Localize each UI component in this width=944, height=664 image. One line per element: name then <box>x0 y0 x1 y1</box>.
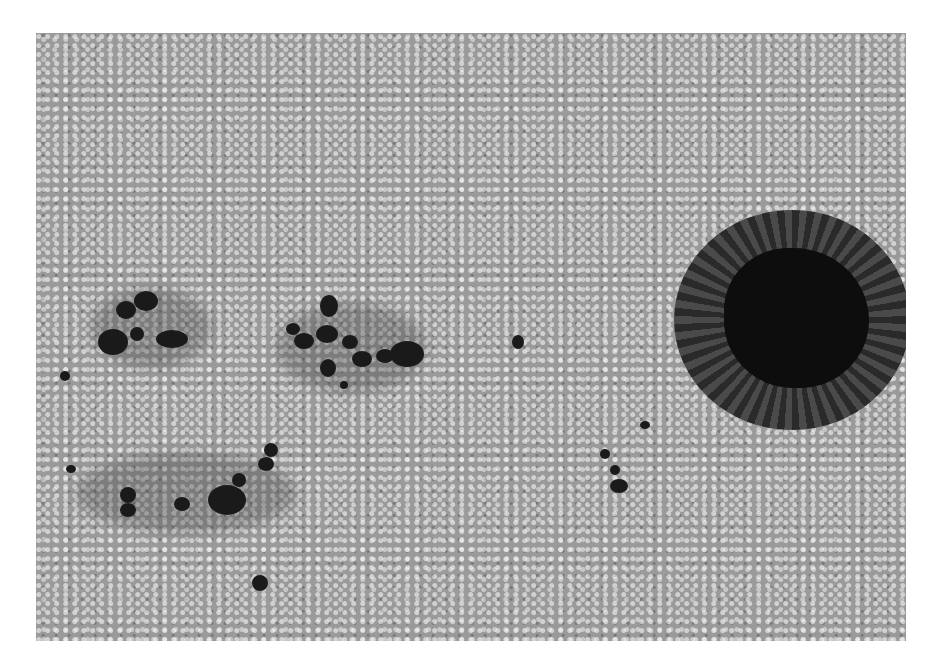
pore <box>316 325 338 343</box>
pore <box>610 479 628 493</box>
pore <box>208 485 246 515</box>
pore <box>352 351 372 367</box>
pore <box>640 421 650 429</box>
pore <box>156 330 188 348</box>
pore <box>610 465 620 475</box>
pore <box>512 335 524 349</box>
pore <box>294 333 314 349</box>
pore <box>320 359 336 377</box>
pore <box>98 329 128 355</box>
pore <box>60 371 70 381</box>
pore <box>264 443 278 457</box>
pore <box>116 301 136 319</box>
solar-surface-photo <box>36 33 906 641</box>
pore <box>120 503 136 517</box>
pore <box>600 449 610 459</box>
pore <box>342 335 358 349</box>
pore <box>130 327 144 341</box>
pore <box>134 291 158 311</box>
pore <box>258 457 274 471</box>
pore <box>232 473 246 487</box>
pore <box>252 575 268 591</box>
pore <box>174 497 190 511</box>
pore <box>340 381 348 389</box>
pore <box>390 341 424 367</box>
sunspot-umbra <box>724 248 869 388</box>
pore <box>320 295 338 317</box>
pore <box>120 487 136 503</box>
pore <box>66 465 76 473</box>
